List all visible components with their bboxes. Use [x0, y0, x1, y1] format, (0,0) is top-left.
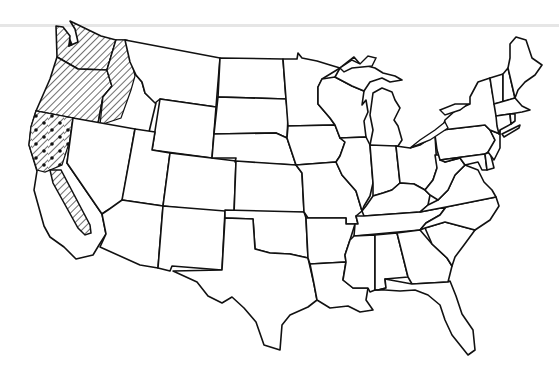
state-colorado	[163, 153, 236, 214]
state-wyoming	[152, 99, 216, 158]
state-michigan-lower	[370, 88, 402, 148]
state-iowa	[287, 125, 345, 165]
us-map	[0, 0, 559, 373]
state-florida	[375, 279, 475, 355]
state-south-dakota	[214, 97, 288, 138]
state-arizona	[100, 200, 163, 268]
state-rhode-island	[510, 114, 515, 124]
state-maine	[508, 37, 542, 98]
state-north-dakota	[218, 58, 286, 99]
state-new-mexico	[158, 206, 225, 271]
state-kansas	[234, 161, 304, 214]
